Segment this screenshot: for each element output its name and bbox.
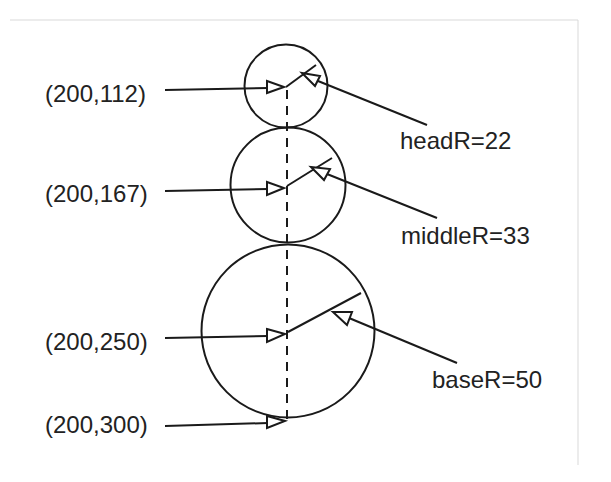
head-center-arrow: [165, 81, 284, 93]
base-bottom-label: (200,300): [45, 411, 148, 438]
base-radius-pointer: [333, 312, 457, 363]
snowman-diagram: (200,112) (200,167) (200,250) (200,300) …: [0, 0, 611, 482]
base-center-arrow: [165, 329, 285, 342]
arrowhead-right-icon: [267, 81, 284, 93]
base-radius-label: baseR=50: [432, 366, 542, 393]
arrowhead-upleft-icon: [333, 312, 352, 325]
head-center-label: (200,112): [45, 80, 146, 107]
middle-radius-pointer: [311, 167, 437, 218]
head-radius-pointer: [302, 73, 427, 125]
arrowhead-right-icon: [267, 329, 285, 342]
arrowhead-right-icon: [267, 182, 284, 195]
middle-center-label: (200,167): [45, 180, 148, 207]
base-center-label: (200,250): [45, 328, 148, 355]
base-bottom-arrow: [165, 416, 285, 428]
arrowhead-upleft-icon: [311, 167, 330, 180]
arrowhead-upleft-icon: [302, 73, 320, 86]
middle-radius-label: middleR=33: [401, 222, 530, 249]
middle-center-arrow: [165, 182, 284, 195]
head-radius-label: headR=22: [400, 127, 511, 154]
